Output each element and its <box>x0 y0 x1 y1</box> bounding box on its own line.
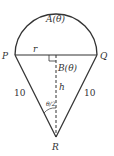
angle-arc <box>44 108 56 113</box>
label-point-q: Q <box>100 51 108 61</box>
label-half-angle: θ/2 <box>46 100 56 107</box>
label-point-r: R <box>51 142 59 152</box>
label-arc-area: A(θ) <box>45 14 65 24</box>
right-angle-marker <box>49 55 56 61</box>
label-height: h <box>59 82 65 92</box>
label-side-right: 10 <box>84 88 96 98</box>
geometry-diagram: A(θ) r P Q B(θ) h 10 10 θ/2 R <box>0 0 114 156</box>
label-radius: r <box>33 44 38 54</box>
label-triangle-area: B(θ) <box>57 63 78 73</box>
label-point-p: P <box>1 51 9 61</box>
label-side-left: 10 <box>14 88 26 98</box>
